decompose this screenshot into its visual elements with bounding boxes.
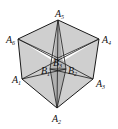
label-a1: A1 <box>11 74 21 86</box>
label-a3: A3 <box>95 78 105 90</box>
diagram-canvas: A1A2A3A4A5A6B1B2B3 <box>0 0 118 129</box>
label-a5: A5 <box>54 8 64 20</box>
hexagon-diagram: A1A2A3A4A5A6B1B2B3 <box>0 0 118 129</box>
label-a4: A4 <box>101 34 111 46</box>
label-a6: A6 <box>5 34 15 46</box>
label-a2: A2 <box>51 113 61 125</box>
